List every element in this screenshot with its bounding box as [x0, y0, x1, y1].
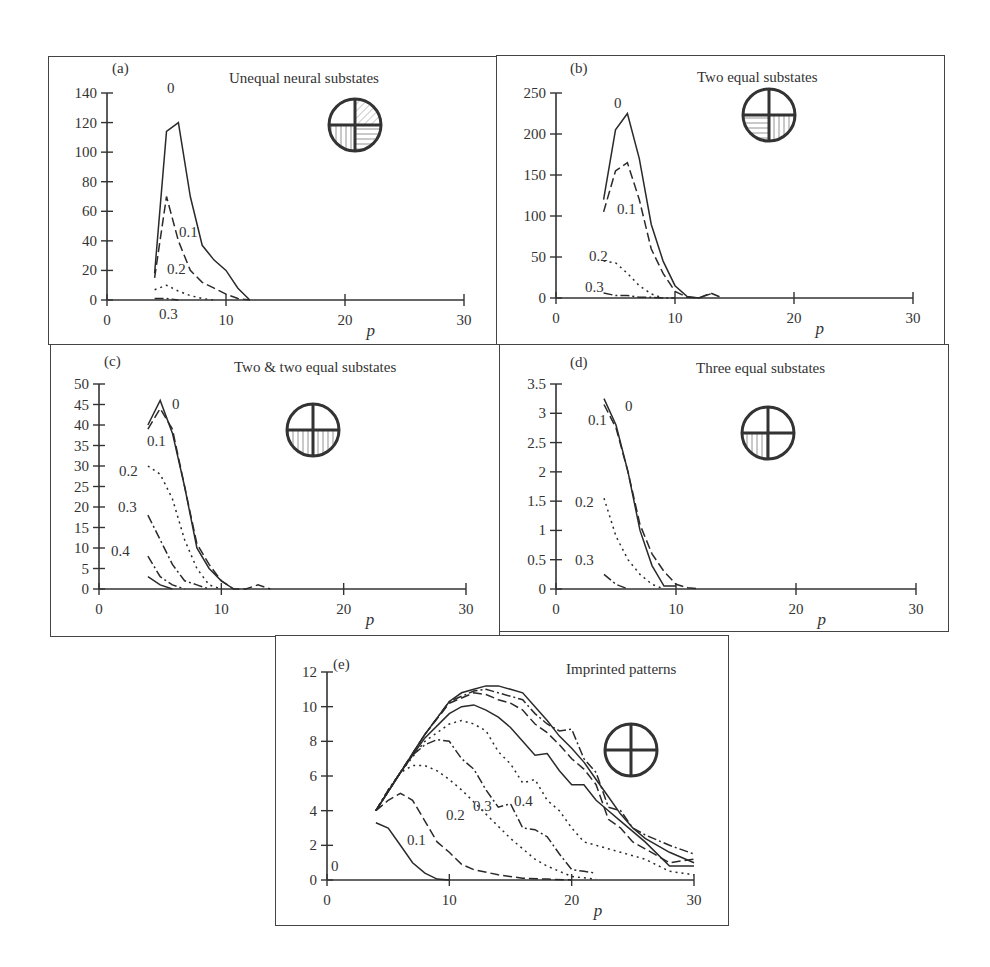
svg-text:30: 30 [74, 458, 89, 474]
svg-text:0: 0 [614, 95, 622, 111]
svg-text:0.1: 0.1 [179, 224, 198, 240]
axes: 0246810120102030p [302, 664, 702, 920]
svg-text:20: 20 [787, 310, 802, 326]
svg-text:0.2: 0.2 [446, 807, 465, 823]
svg-text:2.5: 2.5 [527, 435, 546, 451]
svg-text:10: 10 [214, 601, 229, 617]
axes: 0204060801001201400102030p [75, 85, 472, 340]
svg-text:10: 10 [74, 540, 89, 556]
svg-text:0.2: 0.2 [575, 494, 594, 510]
panel-title-c: Two & two equal substates [234, 359, 396, 376]
svg-text:140: 140 [75, 85, 98, 101]
svg-text:0.1: 0.1 [617, 201, 636, 217]
substate-icon [742, 407, 794, 459]
svg-text:20: 20 [338, 312, 353, 328]
svg-text:10: 10 [442, 892, 457, 908]
svg-text:0: 0 [82, 581, 90, 597]
svg-text:0: 0 [331, 858, 339, 874]
svg-text:p: p [814, 319, 824, 338]
svg-text:0.4: 0.4 [111, 543, 130, 559]
svg-text:0.2: 0.2 [167, 261, 186, 277]
svg-text:45: 45 [74, 397, 89, 413]
svg-text:0: 0 [90, 292, 98, 308]
chart-b: 0501001502002500102030p00.10.20.3 [497, 56, 946, 346]
svg-text:30: 30 [457, 312, 472, 328]
svg-text:0.1: 0.1 [588, 412, 607, 428]
svg-text:0: 0 [167, 80, 175, 96]
substate-icon [287, 404, 339, 456]
substate-icon [329, 99, 381, 151]
svg-text:6: 6 [310, 768, 318, 784]
svg-text:100: 100 [75, 144, 98, 160]
svg-text:10: 10 [302, 699, 317, 715]
svg-text:30: 30 [906, 310, 921, 326]
svg-text:25: 25 [74, 479, 89, 495]
svg-text:50: 50 [531, 249, 546, 265]
panel-c: 051015202530354045500102030p00.10.20.30.… [50, 344, 500, 637]
svg-text:80: 80 [82, 174, 97, 190]
svg-text:0: 0 [539, 581, 547, 597]
svg-text:0: 0 [552, 601, 560, 617]
svg-text:150: 150 [524, 167, 547, 183]
series-0.2 [604, 261, 664, 298]
svg-text:10: 10 [669, 601, 684, 617]
series-0.4 [148, 556, 185, 589]
svg-text:3: 3 [539, 405, 547, 421]
svg-text:30: 30 [687, 892, 702, 908]
svg-text:0.2: 0.2 [119, 463, 138, 479]
svg-text:0: 0 [172, 396, 180, 412]
series-0.1 [148, 409, 270, 589]
svg-text:0: 0 [323, 892, 331, 908]
svg-text:60: 60 [82, 203, 97, 219]
svg-text:0.1: 0.1 [407, 832, 426, 848]
svg-text:0: 0 [310, 872, 318, 888]
svg-text:15: 15 [74, 520, 89, 536]
svg-text:50: 50 [74, 376, 89, 392]
chart-a: 0204060801001201400102030p00.10.20.3 [49, 57, 498, 346]
svg-text:0.5: 0.5 [527, 552, 546, 568]
series-0.2 [376, 766, 596, 880]
svg-text:100: 100 [524, 208, 547, 224]
svg-text:250: 250 [524, 85, 547, 101]
svg-text:120: 120 [75, 115, 98, 131]
svg-text:20: 20 [564, 892, 579, 908]
panel-e: 0246810120102030p00.10.20.30.4 (e) Impri… [275, 635, 729, 926]
svg-text:0.3: 0.3 [585, 279, 604, 295]
panel-label-c: (c) [104, 353, 121, 370]
svg-text:0: 0 [552, 310, 560, 326]
series-0 [148, 400, 234, 589]
svg-text:0: 0 [103, 312, 111, 328]
svg-text:0.3: 0.3 [159, 306, 178, 322]
svg-text:200: 200 [524, 126, 547, 142]
axes: 0501001502002500102030p [524, 85, 921, 338]
substate-icon [605, 724, 657, 776]
substate-icon [743, 89, 795, 141]
svg-text:3.5: 3.5 [527, 376, 546, 392]
chart-c: 051015202530354045500102030p00.10.20.30.… [51, 345, 501, 638]
svg-text:20: 20 [74, 499, 89, 515]
panel-a: 0204060801001201400102030p00.10.20.3 (a)… [48, 56, 497, 345]
panel-label-b: (b) [570, 60, 588, 77]
svg-text:4: 4 [310, 803, 318, 819]
svg-text:0.3: 0.3 [575, 552, 594, 568]
panel-label-e: (e) [333, 656, 350, 673]
svg-text:2: 2 [310, 837, 318, 853]
svg-text:2: 2 [539, 464, 547, 480]
svg-text:20: 20 [336, 601, 351, 617]
svg-text:1: 1 [539, 522, 547, 538]
chart-e: 0246810120102030p00.10.20.30.4 [276, 636, 730, 927]
svg-text:30: 30 [459, 601, 474, 617]
svg-text:0.2: 0.2 [589, 248, 608, 264]
svg-text:p: p [365, 610, 375, 629]
panel-b: 0501001502002500102030p00.10.20.3 (b) Tw… [496, 55, 945, 345]
svg-text:35: 35 [74, 438, 89, 454]
svg-text:0: 0 [539, 290, 547, 306]
svg-text:0: 0 [95, 601, 103, 617]
svg-text:0.1: 0.1 [147, 433, 166, 449]
panel-d: 00.511.522.533.50102030p00.10.20.3 (d) T… [499, 344, 949, 632]
svg-text:0.3: 0.3 [118, 499, 137, 515]
svg-text:5: 5 [82, 561, 90, 577]
svg-text:0.4: 0.4 [514, 793, 533, 809]
svg-text:20: 20 [82, 262, 97, 278]
panel-title-a: Unequal neural substates [229, 70, 379, 87]
